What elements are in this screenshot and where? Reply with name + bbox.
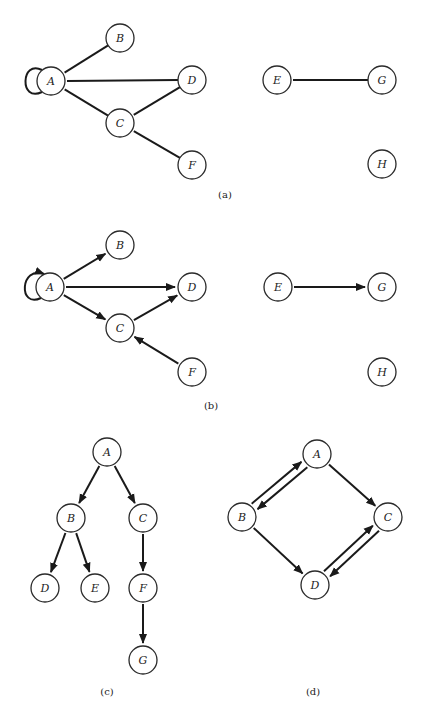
node-e: E bbox=[264, 273, 292, 301]
panel-b-directed-graph: ABDCFEGH(b) bbox=[25, 231, 396, 411]
node-h: H bbox=[368, 150, 396, 178]
node-label: A bbox=[46, 75, 55, 88]
node-label: C bbox=[116, 117, 125, 130]
node-a: A bbox=[93, 438, 121, 466]
node-label: F bbox=[138, 582, 147, 595]
caption-c: (c) bbox=[100, 686, 114, 697]
node-b: B bbox=[228, 503, 256, 531]
node-b: B bbox=[106, 231, 134, 259]
node-label: C bbox=[384, 511, 393, 524]
node-label: F bbox=[187, 366, 196, 379]
node-d: D bbox=[178, 66, 206, 94]
node-label: A bbox=[312, 448, 321, 461]
node-a: A bbox=[303, 440, 331, 468]
node-b: B bbox=[106, 24, 134, 52]
panel-d-cycle-graph: ABCD(d) bbox=[228, 440, 402, 697]
node-label: G bbox=[378, 74, 387, 87]
edge-A-B bbox=[64, 254, 106, 279]
edge-A-D bbox=[67, 80, 178, 81]
node-label: C bbox=[139, 512, 148, 525]
node-d: D bbox=[178, 273, 206, 301]
node-e: E bbox=[81, 574, 109, 602]
caption-a: (a) bbox=[218, 189, 232, 200]
graph-figure: ABDCFEGH(a) ABDCFEGH(b) ABCDEFG(c) ABCD(… bbox=[0, 0, 425, 711]
edge-C-D bbox=[330, 531, 379, 577]
node-label: G bbox=[378, 281, 387, 294]
node-label: C bbox=[116, 322, 125, 335]
node-label: B bbox=[115, 32, 124, 45]
edge-F-C bbox=[135, 337, 179, 364]
node-a: A bbox=[37, 67, 65, 95]
node-label: B bbox=[115, 239, 124, 252]
node-c: C bbox=[106, 314, 134, 342]
edge-A-B bbox=[79, 466, 99, 503]
node-label: H bbox=[376, 158, 387, 171]
edge-A-C bbox=[65, 89, 108, 115]
edge-C-F bbox=[134, 131, 180, 158]
node-d: D bbox=[31, 574, 59, 602]
panel-a-undirected-graph: ABDCFEGH(a) bbox=[25, 24, 396, 200]
node-c: C bbox=[129, 504, 157, 532]
node-label: E bbox=[272, 74, 281, 87]
node-d: D bbox=[301, 571, 329, 599]
caption-b: (b) bbox=[204, 400, 218, 411]
edge-A-B bbox=[65, 45, 109, 72]
node-e: E bbox=[263, 66, 291, 94]
edge-B-E bbox=[76, 533, 89, 572]
node-f: F bbox=[178, 151, 206, 179]
edge-B-D bbox=[254, 528, 303, 574]
node-label: A bbox=[102, 446, 111, 459]
node-label: E bbox=[273, 281, 282, 294]
node-f: F bbox=[129, 574, 157, 602]
caption-d: (d) bbox=[306, 686, 320, 697]
node-label: D bbox=[187, 74, 197, 87]
node-label: F bbox=[187, 159, 196, 172]
node-label: A bbox=[45, 281, 54, 294]
node-label: D bbox=[187, 281, 197, 294]
node-g: G bbox=[129, 646, 157, 674]
edge-A-C bbox=[115, 466, 135, 503]
node-label: B bbox=[66, 512, 75, 525]
node-b: B bbox=[57, 504, 85, 532]
node-label: G bbox=[139, 654, 148, 667]
edge-C-D bbox=[134, 87, 180, 115]
node-label: B bbox=[237, 511, 246, 524]
panel-c-tree: ABCDEFG(c) bbox=[31, 438, 157, 697]
node-a: A bbox=[36, 273, 64, 301]
edge-C-D bbox=[134, 295, 177, 320]
node-c: C bbox=[374, 503, 402, 531]
node-label: H bbox=[376, 366, 387, 379]
node-g: G bbox=[368, 66, 396, 94]
node-label: E bbox=[90, 582, 99, 595]
node-c: C bbox=[106, 109, 134, 137]
edge-A-C bbox=[329, 465, 375, 506]
edge-B-D bbox=[51, 533, 66, 572]
node-f: F bbox=[178, 358, 206, 386]
node-h: H bbox=[368, 358, 396, 386]
edge-B-A bbox=[252, 462, 302, 504]
edge-A-C bbox=[64, 295, 106, 319]
node-g: G bbox=[368, 273, 396, 301]
node-label: D bbox=[40, 582, 50, 595]
edge-A-B bbox=[258, 467, 308, 509]
edge-D-C bbox=[324, 526, 373, 572]
node-label: D bbox=[310, 579, 320, 592]
